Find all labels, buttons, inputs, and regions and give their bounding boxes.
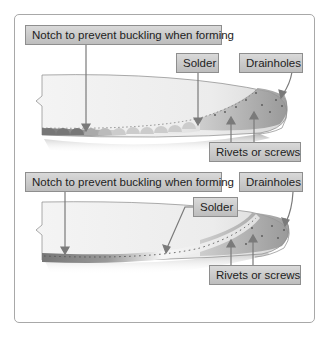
top-notch-label: Notch to prevent buckling when forming <box>25 25 222 45</box>
top-drainholes-label: Drainholes <box>239 53 303 73</box>
bottom-rivets-label: Rivets or screws <box>209 265 301 285</box>
bottom-drainholes-label: Drainholes <box>239 172 303 192</box>
bottom-panel <box>36 192 293 274</box>
wingtip-diagrams <box>0 0 326 337</box>
bottom-solder-label: Solder <box>193 197 238 217</box>
top-rivets-label: Rivets or screws <box>209 142 301 162</box>
top-solder-label: Solder <box>176 53 219 73</box>
bottom-notch-label: Notch to prevent buckling when forming <box>25 172 222 192</box>
